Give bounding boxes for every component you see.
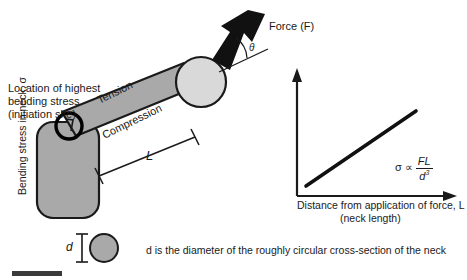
formula-fraction: FLd3 [416, 155, 433, 182]
formula-proportional-sign: ∝ [405, 161, 413, 173]
stem-body [37, 122, 99, 218]
scale-bar [12, 271, 62, 276]
formula-numerator: FL [416, 155, 433, 169]
diameter-legend [76, 234, 118, 262]
proportionality-formula: σ ∝FLd3 [395, 155, 433, 182]
formula-sigma: σ [395, 161, 402, 173]
head-circle [176, 57, 226, 107]
length-label: L [146, 148, 153, 163]
chart-y-axis-label: Bending stress in neck, σ [16, 71, 28, 201]
theta-label: θ [249, 42, 254, 54]
formula-exponent: 3 [425, 169, 429, 176]
diagram-vector-layer [0, 0, 467, 280]
cross-section-circle [90, 234, 118, 262]
diameter-label: d [66, 240, 73, 254]
diameter-caption: d is the diameter of the roughly circula… [146, 244, 446, 256]
chart-x-axis-label: Distance from application of force, L [297, 199, 465, 211]
chart-x-axis-sublabel: (neck length) [340, 212, 401, 224]
formula-denominator-group: d3 [416, 169, 433, 182]
figure-canvas: Location of highest bending stress (init… [0, 0, 467, 280]
force-label: Force (F) [269, 20, 314, 33]
